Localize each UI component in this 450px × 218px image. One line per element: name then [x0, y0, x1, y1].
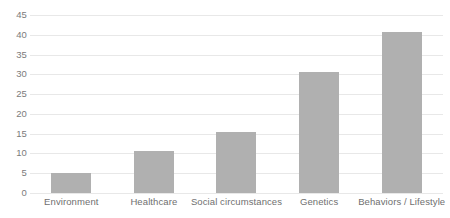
y-tick-label: 35	[1, 50, 27, 60]
y-tick-label: 25	[1, 89, 27, 99]
y-tick-label: 30	[1, 69, 27, 79]
y-tick-label: 40	[1, 30, 27, 40]
x-tick-label-social-circumstances: Social circumstances	[191, 196, 282, 208]
y-tick-label: 5	[1, 168, 27, 178]
x-tick-label-healthcare: Healthcare	[130, 196, 177, 208]
y-tick-label: 15	[1, 129, 27, 139]
x-tick-label-environment: Environment	[44, 196, 98, 208]
x-axis: Environment Healthcare Social circumstan…	[30, 0, 443, 218]
bar-chart: 45 40 35 30 25 20 15 10 5 0 Environment …	[0, 0, 450, 218]
y-tick-label: 45	[1, 10, 27, 20]
x-tick-label-genetics: Genetics	[300, 196, 338, 208]
x-tick-label-behaviors-lifestyle: Behaviors / Lifestyle	[358, 196, 445, 208]
y-tick-label: 0	[1, 188, 27, 198]
y-tick-label: 10	[1, 148, 27, 158]
y-tick-label: 20	[1, 109, 27, 119]
y-axis: 45 40 35 30 25 20 15 10 5 0	[0, 0, 27, 218]
